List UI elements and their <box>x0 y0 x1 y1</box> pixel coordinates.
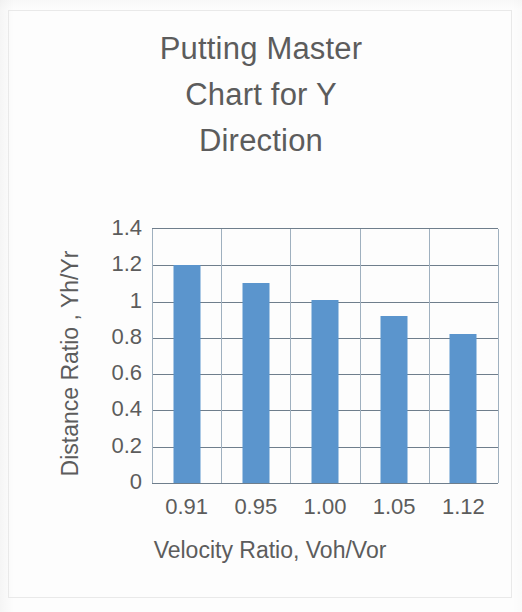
y-tick-label: 0.4 <box>78 398 142 420</box>
x-tick-label: 1.05 <box>373 494 416 520</box>
x-axis-tick-labels: 0.910.951.001.051.12 <box>152 494 498 528</box>
bar-slot <box>429 229 498 483</box>
bar <box>381 316 408 483</box>
bar <box>242 283 269 483</box>
bar <box>450 334 477 483</box>
bar <box>173 265 200 483</box>
y-tick-label: 1.2 <box>78 253 142 275</box>
x-tick-label: 1.00 <box>304 494 347 520</box>
bar-slot <box>221 229 290 483</box>
x-tick-label: 1.12 <box>442 494 485 520</box>
y-tick-label: 0 <box>78 471 142 493</box>
bar-series <box>152 229 498 483</box>
x-tick-label: 0.91 <box>165 494 208 520</box>
gridline <box>152 483 498 484</box>
y-tick-label: 1.4 <box>78 217 142 239</box>
bar <box>311 300 338 483</box>
x-axis-title: Velocity Ratio, Voh/Vor <box>40 537 500 564</box>
chart-page: Putting Master Chart for Y Direction Dis… <box>0 0 522 612</box>
y-tick-label: 0.2 <box>78 435 142 457</box>
bar-slot <box>152 229 221 483</box>
bar-slot <box>360 229 429 483</box>
plot-area <box>152 228 498 483</box>
bar-slot <box>290 229 359 483</box>
x-tick-label: 0.95 <box>234 494 277 520</box>
y-tick-label: 1 <box>78 290 142 312</box>
chart-title: Putting Master Chart for Y Direction <box>40 26 482 164</box>
y-tick-label: 0.8 <box>78 326 142 348</box>
y-axis-tick-labels: 1.41.210.80.60.40.20 <box>78 214 142 486</box>
y-tick-label: 0.6 <box>78 362 142 384</box>
category-gridline <box>498 229 499 483</box>
